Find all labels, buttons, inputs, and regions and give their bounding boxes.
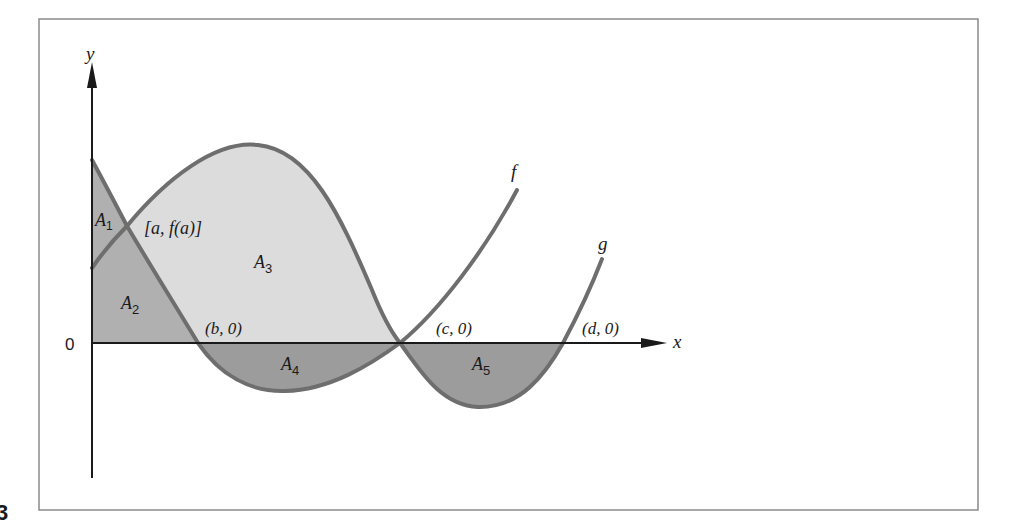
- point-a-label: [a, f(a)]: [144, 218, 202, 239]
- y-axis-label: y: [84, 43, 95, 64]
- y-axis-arrow-icon: [87, 62, 97, 88]
- x-axis-label: x: [672, 331, 682, 352]
- point-b-label: (b, 0): [205, 319, 242, 338]
- x-axis-arrow-icon: [641, 338, 667, 348]
- curve-f-label: f: [511, 161, 519, 182]
- point-d-label: (d, 0): [582, 319, 619, 338]
- area-between-curves-diagram: y x 0 f g [a, f(a)] (b, 0) (c, 0) (d, 0)…: [0, 0, 1009, 529]
- curve-g-label: g: [598, 233, 608, 254]
- origin-label: 0: [65, 335, 74, 354]
- point-c-label: (c, 0): [436, 319, 472, 338]
